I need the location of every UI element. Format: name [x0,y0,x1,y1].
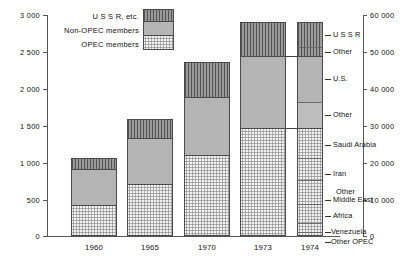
callout-dash-africa [325,216,331,217]
x-axis-label-1960: 1960 [71,243,117,252]
bar-segment-venezuela [297,223,323,232]
callout-label-venezuela: Venezuela [331,228,366,236]
x-axis-label-1965: 1965 [127,243,173,252]
callout-label-us: U.S. [333,75,348,83]
callout-dash-other-non-opec [325,115,331,116]
legend-swatch-ussr [143,9,174,21]
legend-label-opec: OPEC members [56,41,139,49]
callout-label-iran: Iran [333,170,346,178]
callout-label-other-middle-east-line2: Middle East [333,196,373,204]
callout-dash-saudi-arabia [325,145,331,146]
bar-segment-ussr [184,62,230,97]
bar-segment-ussr [127,119,173,138]
callout-dash-ussr [325,35,331,36]
legend-swatch-non-opec [143,21,174,35]
bar-segment-saudi-arabia [297,128,323,158]
x-axis-label-1970: 1970 [184,243,230,252]
stacked-bar-chart: 3 000 2 500 2 000 1 500 1 000 500 0 60 0… [0,0,412,256]
callout-dash-other-ussr [325,52,331,53]
legend-label-ussr: U S S R, etc. [60,13,139,21]
bar-segment-non-opec [240,56,286,128]
callout-label-other-ussr: Other [333,48,352,56]
legend-swatch-opec [143,35,174,50]
leader-line-bottom [286,128,298,129]
bar-segment-non-opec-other [297,102,323,128]
callout-dash-other-middle-east [325,200,331,201]
bar-segment-non-opec [71,169,117,205]
x-axis-label-1973: 1973 [240,243,286,252]
callout-label-ussr: U S S R [333,31,360,39]
bar-segment-opec [240,128,286,236]
callout-label-other-opec: Other OPEC [331,238,373,246]
callout-label-africa: Africa [333,212,353,220]
callout-label-saudi-arabia: Saudi Arabia [333,141,376,149]
legend-label-non-opec: Non-OPEC members [44,27,139,35]
bar-segment-opec [127,184,173,236]
bar-segment-non-opec [184,97,230,155]
bar-segment-non-opec [127,138,173,184]
bar-segment-other-middle-east [297,180,323,204]
bar-segment-opec [184,155,230,236]
bar-segment-other-opec [297,232,323,236]
bar-segment-ussr [71,158,117,169]
x-axis-label-1974: 1974 [291,243,329,252]
bar-segment-us [297,56,323,102]
callout-label-other-non-opec: Other [333,111,352,119]
bar-segment-opec [71,205,117,236]
bar-segment-africa [297,204,323,223]
bar-segment-iran [297,158,323,180]
callout-dash-us [325,79,331,80]
callout-dash-iran [325,174,331,175]
